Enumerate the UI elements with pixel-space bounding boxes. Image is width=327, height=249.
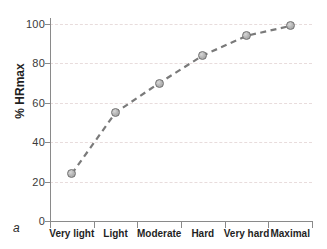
gridline-80 — [50, 63, 312, 64]
y-tick-label-60: 60 — [32, 97, 45, 109]
y-tick-label-40: 40 — [32, 136, 45, 148]
data-point-moderate — [155, 79, 164, 88]
y-tick-label-0: 0 — [39, 215, 45, 227]
panel-label: a — [13, 221, 20, 235]
gridline-60 — [50, 103, 312, 104]
x-tick-label-very-light: Very light — [49, 228, 94, 239]
gridline-20 — [50, 182, 312, 183]
x-tick-label-moderate: Moderate — [137, 228, 181, 239]
y-tick-mark-60 — [45, 103, 50, 104]
x-tick-label-maximal: Maximal — [270, 228, 309, 239]
x-tick-mark-6 — [312, 221, 313, 228]
y-tick-label-100: 100 — [26, 18, 45, 30]
plot-area — [50, 24, 312, 221]
y-axis-title: % HRmax — [13, 31, 27, 151]
y-tick-label-80: 80 — [32, 57, 45, 69]
x-tick-mark-5 — [268, 221, 269, 228]
y-axis-line — [50, 18, 51, 221]
x-tick-mark-4 — [225, 221, 226, 228]
x-tick-mark-0 — [50, 221, 51, 228]
gridline-40 — [50, 142, 312, 143]
figure-panel-a: 100 80 60 40 20 0 Very light Light Moder… — [0, 0, 327, 249]
x-tick-mark-3 — [181, 221, 182, 228]
x-tick-label-hard: Hard — [191, 228, 214, 239]
x-tick-label-light: Light — [103, 228, 127, 239]
gridline-100 — [50, 24, 312, 25]
x-tick-label-very-hard: Very hard — [224, 228, 270, 239]
y-tick-mark-40 — [45, 142, 50, 143]
x-tick-mark-2 — [137, 221, 138, 228]
y-tick-label-20: 20 — [32, 176, 45, 188]
y-tick-mark-80 — [45, 63, 50, 64]
x-tick-mark-1 — [94, 221, 95, 228]
y-tick-mark-20 — [45, 182, 50, 183]
y-tick-mark-100 — [45, 24, 50, 25]
